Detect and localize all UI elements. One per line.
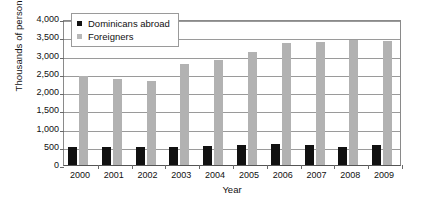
bar-dominicans-abroad	[237, 145, 246, 165]
bar-group	[233, 21, 267, 165]
x-axis-tick-mark	[267, 165, 268, 169]
bar-group	[267, 21, 301, 165]
bar-foreigners	[282, 43, 291, 165]
bar-group	[334, 21, 368, 165]
legend-swatch-icon	[77, 34, 82, 39]
x-axis-tick-mark	[334, 165, 335, 169]
legend-swatch-icon	[77, 21, 82, 26]
x-axis-tick-mark	[233, 165, 234, 169]
bar-group	[301, 21, 335, 165]
x-axis-tick-mark	[132, 165, 133, 169]
x-axis-tick-label: 2008	[333, 170, 367, 180]
y-axis-tick-label: 2,000	[19, 88, 59, 97]
legend-item-label: Foreigners	[88, 31, 133, 42]
bar-chart: Thousands of persons 05001,0001,5002,000…	[0, 0, 421, 204]
bar-dominicans-abroad	[271, 144, 280, 165]
bar-foreigners	[383, 41, 392, 165]
x-axis-tick-label: 2004	[198, 170, 232, 180]
x-axis-tick-label: 2007	[300, 170, 334, 180]
y-axis-tick-label: 3,000	[19, 52, 59, 61]
legend-item: Foreigners	[77, 30, 170, 43]
bar-dominicans-abroad	[338, 147, 347, 165]
y-axis-tick-label: 1,000	[19, 125, 59, 134]
y-axis-tick-label: 0	[19, 161, 59, 170]
bar-foreigners	[349, 40, 358, 165]
bar-dominicans-abroad	[305, 145, 314, 165]
x-axis-tick-label: 2001	[97, 170, 131, 180]
bar-foreigners	[248, 52, 257, 165]
x-axis-tick-mark	[199, 165, 200, 169]
bar-foreigners	[180, 64, 189, 165]
bar-dominicans-abroad	[203, 146, 212, 165]
x-axis-tick-label: 2009	[367, 170, 401, 180]
bar-group	[199, 21, 233, 165]
x-axis-tick-mark	[165, 165, 166, 169]
bar-dominicans-abroad	[68, 147, 77, 165]
bar-foreigners	[147, 81, 156, 165]
bar-dominicans-abroad	[169, 147, 178, 165]
x-axis-tick-label: 2003	[164, 170, 198, 180]
x-axis-tick-mark	[98, 165, 99, 169]
x-axis-tick-mark	[402, 165, 403, 169]
bar-group	[368, 21, 402, 165]
bar-foreigners	[214, 60, 223, 165]
x-axis-tick-label: 2000	[63, 170, 97, 180]
y-axis-tick-label: 3,500	[19, 33, 59, 42]
x-axis-tick-label: 2006	[266, 170, 300, 180]
x-axis-title: Year	[63, 184, 401, 195]
chart-legend: Dominicans abroadForeigners	[71, 13, 179, 47]
y-axis-tick-label: 1,500	[19, 106, 59, 115]
bar-foreigners	[316, 42, 325, 165]
x-axis-tick-label: 2005	[232, 170, 266, 180]
y-axis-tick-mark	[60, 167, 64, 168]
bar-foreigners	[79, 76, 88, 165]
legend-item: Dominicans abroad	[77, 17, 170, 30]
bar-dominicans-abroad	[102, 147, 111, 165]
bar-dominicans-abroad	[372, 145, 381, 165]
y-axis-tick-label: 500	[19, 143, 59, 152]
x-axis-tick-mark	[301, 165, 302, 169]
bar-foreigners	[113, 79, 122, 166]
x-axis-tick-mark	[368, 165, 369, 169]
legend-item-label: Dominicans abroad	[88, 18, 170, 29]
y-axis-tick-label: 4,000	[19, 15, 59, 24]
x-axis-tick-label: 2002	[131, 170, 165, 180]
bar-dominicans-abroad	[136, 147, 145, 165]
y-axis-tick-label: 2,500	[19, 70, 59, 79]
y-axis-tick-labels: 05001,0001,5002,0002,5003,0003,5004,000	[18, 0, 59, 204]
